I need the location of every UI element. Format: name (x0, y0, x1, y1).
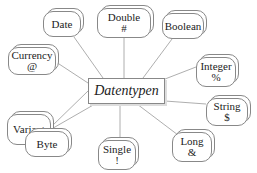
node-currency: Currency@ (8, 47, 60, 79)
node-boolean: Boolean (162, 13, 208, 43)
node-card: Byte (25, 131, 69, 157)
edge-long (137, 104, 178, 135)
type-suffix-symbol: @ (27, 61, 37, 72)
node-integer: Integer% (196, 57, 240, 91)
type-suffix-symbol: & (188, 147, 197, 158)
center-label: Datentypen (94, 83, 159, 99)
node-card: Integer% (196, 57, 236, 87)
node-card: Date (43, 11, 81, 37)
node-label: Boolean (165, 21, 202, 32)
node-card: Single! (98, 140, 136, 170)
node-card: Boolean (162, 13, 204, 39)
node-label: Byte (37, 139, 58, 150)
type-suffix-symbol: % (211, 72, 220, 83)
node-long: Long& (172, 132, 216, 166)
node-date: Date (43, 11, 85, 41)
node-string: String$ (206, 98, 252, 130)
edge-byte (48, 104, 95, 131)
edge-date (74, 37, 103, 78)
node-card: Double# (97, 8, 151, 38)
node-card: Currency@ (8, 47, 56, 75)
node-byte: Byte (25, 131, 73, 161)
edge-currency (56, 62, 88, 83)
node-card: Long& (172, 132, 212, 162)
edge-boolean (143, 39, 172, 78)
edge-string (165, 101, 206, 104)
node-single: Single! (98, 140, 140, 173)
center-node-datentypen: Datentypen (88, 78, 165, 104)
type-suffix-symbol: $ (224, 112, 230, 123)
node-label: Date (52, 19, 73, 30)
node-card: String$ (206, 98, 248, 126)
edge-variant (51, 91, 88, 127)
node-double: Double# (97, 8, 155, 42)
type-suffix-symbol: ! (115, 155, 119, 166)
edge-integer (165, 67, 196, 79)
type-suffix-symbol: # (121, 23, 127, 34)
